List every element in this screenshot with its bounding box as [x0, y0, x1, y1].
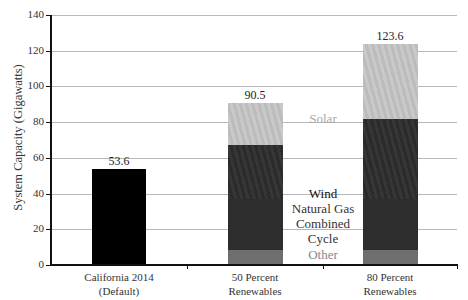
category-line: California 2014	[59, 270, 179, 284]
x-tick	[457, 265, 458, 269]
category-line: 50 Percent	[195, 270, 315, 284]
bar-california-2014	[92, 169, 146, 265]
bar3-wind-segment	[363, 119, 418, 199]
category-line: 80 Percent	[330, 270, 450, 284]
bar2-gas-segment	[228, 199, 283, 250]
category-label-california: California 2014 (Default)	[59, 270, 179, 298]
y-tick-label: 0	[14, 258, 44, 270]
stacked-bar-chart: System Capacity (Gigawatts) 0 20 40 60 8…	[0, 0, 468, 300]
y-tick-label: 60	[14, 151, 44, 163]
gridline-140	[52, 15, 457, 16]
bar3-other-segment	[363, 250, 418, 265]
bar2-other-segment	[228, 250, 283, 265]
total-label: 90.5	[215, 88, 295, 103]
label-gas-line1: Natural Gas	[278, 201, 368, 216]
category-label-50-percent: 50 Percent Renewables	[195, 270, 315, 298]
bar2-wind-segment	[228, 145, 283, 199]
bar3-gas-segment	[363, 199, 418, 250]
x-tick	[187, 265, 188, 269]
category-label-80-percent: 80 Percent Renewables	[330, 270, 450, 298]
total-label: 123.6	[350, 29, 430, 44]
y-tick-label: 140	[14, 8, 44, 20]
label-gas-line3: Cycle	[278, 231, 368, 246]
category-line: Renewables	[195, 284, 315, 298]
bar3-solar-segment	[363, 44, 418, 119]
x-tick	[323, 265, 324, 269]
y-tick-label: 120	[14, 44, 44, 56]
label-other: Other	[278, 247, 368, 262]
y-tick-label: 40	[14, 187, 44, 199]
bar2-solar-segment	[228, 103, 283, 145]
y-axis	[50, 15, 52, 266]
label-gas-line2: Combined	[278, 216, 368, 231]
y-tick-label: 100	[14, 79, 44, 91]
category-line: Renewables	[330, 284, 450, 298]
label-solar: Solar	[278, 111, 368, 126]
y-tick-label: 80	[14, 115, 44, 127]
label-wind: Wind	[278, 186, 368, 201]
x-axis	[50, 264, 458, 266]
category-line: (Default)	[59, 284, 179, 298]
total-label: 53.6	[79, 154, 159, 169]
y-tick-label: 20	[14, 222, 44, 234]
